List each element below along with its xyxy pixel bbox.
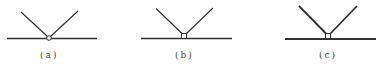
figure-b-right-diagonal [187, 8, 214, 34]
figure-c-caption: (c) [319, 50, 337, 60]
figure-b-caption: (b) [175, 50, 194, 60]
figure-a-hinge-joint-icon [47, 36, 52, 41]
figure-b [141, 8, 232, 39]
diagram-canvas [0, 0, 376, 77]
figure-c-rigid-joint-icon [326, 34, 331, 39]
figure-c-left-diagonal [299, 6, 326, 34]
figure-a-right-diagonal [51, 11, 79, 37]
figure-c [285, 6, 376, 39]
figure-b-left-diagonal [156, 9, 182, 34]
figure-b-rigid-joint-icon [182, 34, 187, 39]
figure-a-caption: (a) [40, 50, 58, 60]
figure-a-left-diagonal [21, 12, 48, 37]
figure-c-right-diagonal [331, 6, 358, 34]
figure-a [7, 11, 97, 40]
